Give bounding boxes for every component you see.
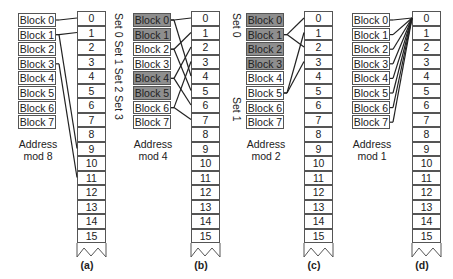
- memory-address-cell: 8: [412, 127, 441, 142]
- memory-continuation-zigzag: [191, 243, 220, 257]
- memory-address-cell: 2: [412, 40, 441, 55]
- address-label: Addressmod 8: [8, 138, 68, 162]
- memory-address-cell: 0: [77, 11, 106, 26]
- mapping-line: [287, 33, 304, 94]
- mapping-line: [393, 18, 412, 122]
- memory-address-cell: 0: [191, 11, 220, 26]
- cache-block: Block 2: [246, 42, 284, 56]
- memory-continuation-zigzag: [77, 243, 106, 257]
- memory-address-cell: 8: [304, 127, 333, 142]
- cache-block: Block 2: [18, 42, 56, 56]
- memory-address-cell: 12: [77, 185, 106, 200]
- memory-address-cell: 14: [412, 214, 441, 229]
- memory-address-cell: 1: [191, 26, 220, 41]
- cache-block: Block 5: [246, 86, 284, 100]
- memory-address-cell: 11: [412, 171, 441, 186]
- mapping-line: [174, 108, 191, 120]
- mapping-line: [393, 18, 412, 78]
- memory-address-cell: 6: [77, 98, 106, 113]
- memory-address-cell: 15: [412, 229, 441, 244]
- mapping-line: [393, 18, 412, 93]
- memory-address-cell: 0: [412, 11, 441, 26]
- mapping-line: [393, 18, 412, 20]
- cache-block: Block 4: [246, 71, 284, 85]
- mapping-line: [393, 18, 412, 64]
- memory-address-cell: 1: [304, 26, 333, 41]
- cache-block: Block 0: [352, 13, 390, 27]
- memory-address-cell: 7: [191, 113, 220, 128]
- address-label-line1: Address: [236, 138, 296, 150]
- memory-address-cell: 0: [304, 11, 333, 26]
- address-label-line1: Address: [342, 138, 402, 150]
- mapping-line: [174, 49, 191, 90]
- memory-address-cell: 12: [412, 185, 441, 200]
- memory-address-cell: 13: [191, 200, 220, 215]
- cache-block: Block 1: [133, 28, 171, 42]
- set-label: Set 0: [231, 13, 243, 38]
- cache-block: Block 1: [18, 28, 56, 42]
- memory-address-cell: 5: [77, 84, 106, 99]
- address-label-line1: Address: [8, 138, 68, 150]
- memory-address-cell: 12: [191, 185, 220, 200]
- panel-caption: (d): [407, 259, 437, 271]
- mapping-line: [287, 62, 304, 94]
- memory-address-cell: 5: [191, 84, 220, 99]
- mapping-line: [174, 20, 191, 76]
- panel-caption: (c): [299, 259, 329, 271]
- memory-address-cell: 4: [77, 69, 106, 84]
- memory-address-cell: 10: [77, 156, 106, 171]
- memory-address-cell: 3: [191, 55, 220, 70]
- cache-block: Block 6: [246, 101, 284, 115]
- memory-address-cell: 13: [304, 200, 333, 215]
- cache-block: Block 5: [352, 86, 390, 100]
- mapping-line: [59, 35, 77, 149]
- memory-address-cell: 6: [304, 98, 333, 113]
- mapping-line: [59, 33, 77, 35]
- address-label-line2: mod 1: [342, 150, 402, 162]
- address-label-line2: mod 4: [123, 150, 183, 162]
- memory-address-cell: 11: [77, 171, 106, 186]
- mapping-line: [174, 62, 191, 108]
- mapping-line: [174, 33, 191, 50]
- memory-address-cell: 7: [304, 113, 333, 128]
- memory-continuation-zigzag: [304, 243, 333, 257]
- set-labels: Set 0 Set 1 Set 2 Set 3: [113, 13, 125, 120]
- memory-address-cell: 2: [191, 40, 220, 55]
- cache-block: Block 6: [133, 101, 171, 115]
- cache-block: Block 4: [352, 71, 390, 85]
- memory-address-cell: 4: [304, 69, 333, 84]
- memory-address-cell: 4: [412, 69, 441, 84]
- cache-block: Block 7: [133, 115, 171, 129]
- mapping-line: [287, 18, 304, 35]
- cache-block: Block 0: [18, 13, 56, 27]
- cache-block: Block 3: [352, 57, 390, 71]
- memory-address-cell: 2: [304, 40, 333, 55]
- memory-address-cell: 10: [304, 156, 333, 171]
- memory-address-cell: 3: [412, 55, 441, 70]
- memory-address-cell: 15: [304, 229, 333, 244]
- cache-block: Block 7: [352, 115, 390, 129]
- mapping-line: [174, 18, 191, 20]
- memory-address-cell: 12: [304, 185, 333, 200]
- panel-caption: (b): [186, 259, 216, 271]
- cache-block: Block 1: [352, 28, 390, 42]
- memory-address-cell: 14: [191, 214, 220, 229]
- memory-address-cell: 3: [304, 55, 333, 70]
- memory-address-cell: 10: [191, 156, 220, 171]
- cache-block: Block 7: [246, 115, 284, 129]
- memory-address-cell: 5: [304, 84, 333, 99]
- cache-block: Block 2: [352, 42, 390, 56]
- memory-address-cell: 15: [77, 229, 106, 244]
- cache-block: Block 3: [246, 57, 284, 71]
- memory-address-cell: 6: [412, 98, 441, 113]
- memory-address-cell: 4: [191, 69, 220, 84]
- cache-block: Block 0: [133, 13, 171, 27]
- cache-block: Block 6: [18, 101, 56, 115]
- memory-address-cell: 2: [77, 40, 106, 55]
- panel-caption: (a): [72, 259, 102, 271]
- memory-address-cell: 9: [191, 142, 220, 157]
- memory-address-cell: 14: [77, 214, 106, 229]
- address-label: Addressmod 2: [236, 138, 296, 162]
- address-label: Addressmod 1: [342, 138, 402, 162]
- memory-address-cell: 1: [77, 26, 106, 41]
